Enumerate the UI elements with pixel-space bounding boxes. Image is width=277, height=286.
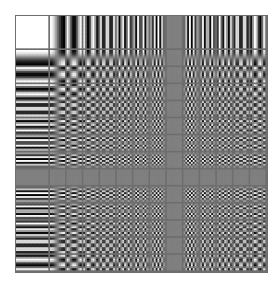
basis-cell xyxy=(234,16,249,48)
basis-cell xyxy=(50,101,65,116)
basis-cell xyxy=(217,135,232,150)
basis-cell xyxy=(100,16,115,48)
basis-cell xyxy=(250,84,265,99)
basis-cell xyxy=(16,238,48,253)
basis-cell xyxy=(250,187,265,202)
basis-cell xyxy=(200,84,215,99)
basis-cell xyxy=(83,84,98,99)
basis-cell xyxy=(184,221,199,236)
basis-cell xyxy=(100,204,115,219)
basis-cell xyxy=(167,50,182,65)
basis-cell xyxy=(167,67,182,82)
basis-cell xyxy=(200,255,215,270)
basis-cell xyxy=(83,187,98,202)
basis-cell xyxy=(167,255,182,270)
basis-cell xyxy=(250,67,265,82)
basis-cell xyxy=(200,170,215,185)
basis-cell xyxy=(234,50,249,65)
basis-cell xyxy=(16,170,48,185)
basis-cell xyxy=(217,255,232,270)
basis-cell xyxy=(217,187,232,202)
basis-cell xyxy=(234,187,249,202)
basis-cell xyxy=(150,187,165,202)
basis-cell xyxy=(50,118,65,133)
basis-cell xyxy=(150,221,165,236)
basis-cell xyxy=(133,135,148,150)
basis-cell xyxy=(16,118,48,133)
basis-cell xyxy=(50,50,65,65)
basis-cell xyxy=(217,84,232,99)
basis-cell xyxy=(117,135,132,150)
basis-cell xyxy=(100,118,115,133)
basis-cell xyxy=(133,84,148,99)
basis-cell xyxy=(150,255,165,270)
basis-cell xyxy=(167,238,182,253)
basis-cell xyxy=(100,67,115,82)
basis-cell xyxy=(150,135,165,150)
basis-cell xyxy=(250,101,265,116)
basis-cell xyxy=(150,204,165,219)
basis-cell xyxy=(250,238,265,253)
basis-cell xyxy=(150,67,165,82)
basis-cell xyxy=(167,84,182,99)
basis-cell xyxy=(117,101,132,116)
basis-cell xyxy=(100,50,115,65)
basis-cell xyxy=(100,221,115,236)
basis-cell xyxy=(100,84,115,99)
basis-cell xyxy=(16,101,48,116)
basis-cell xyxy=(16,84,48,99)
basis-cell xyxy=(117,50,132,65)
basis-cell xyxy=(117,16,132,48)
basis-cell xyxy=(133,16,148,48)
basis-cell xyxy=(83,170,98,185)
basis-cell xyxy=(16,187,48,202)
basis-cell xyxy=(67,50,82,65)
basis-cell xyxy=(250,170,265,185)
basis-cell xyxy=(50,187,65,202)
basis-cell xyxy=(234,152,249,167)
basis-cell xyxy=(184,67,199,82)
basis-cell xyxy=(167,135,182,150)
basis-cell xyxy=(150,50,165,65)
basis-cell xyxy=(67,204,82,219)
basis-cell xyxy=(83,67,98,82)
basis-cell xyxy=(250,255,265,270)
basis-cell xyxy=(100,135,115,150)
basis-cell xyxy=(250,135,265,150)
basis-cell xyxy=(117,152,132,167)
basis-cell xyxy=(67,255,82,270)
basis-cell xyxy=(16,67,48,82)
basis-cell xyxy=(133,152,148,167)
basis-cell xyxy=(250,16,265,48)
basis-cell xyxy=(100,255,115,270)
basis-cell xyxy=(217,50,232,65)
basis-cell xyxy=(200,204,215,219)
basis-cell xyxy=(184,50,199,65)
basis-cell xyxy=(167,152,182,167)
basis-cell xyxy=(184,170,199,185)
basis-cell xyxy=(234,118,249,133)
basis-cell xyxy=(250,152,265,167)
basis-cell xyxy=(200,101,215,116)
basis-cell xyxy=(83,16,98,48)
basis-cell xyxy=(167,187,182,202)
basis-cell xyxy=(100,152,115,167)
basis-cell xyxy=(67,118,82,133)
basis-cell xyxy=(200,16,215,48)
basis-cell xyxy=(200,187,215,202)
basis-cell xyxy=(16,135,48,150)
basis-cell xyxy=(133,170,148,185)
basis-cell xyxy=(234,255,249,270)
basis-cell xyxy=(100,170,115,185)
basis-cell xyxy=(234,221,249,236)
basis-cell xyxy=(217,204,232,219)
basis-cell xyxy=(67,238,82,253)
basis-cell xyxy=(217,101,232,116)
basis-cell xyxy=(50,255,65,270)
basis-cell xyxy=(150,152,165,167)
basis-cell xyxy=(16,50,48,65)
basis-cell xyxy=(133,50,148,65)
basis-cell xyxy=(133,255,148,270)
basis-cell xyxy=(200,221,215,236)
basis-cell xyxy=(50,84,65,99)
